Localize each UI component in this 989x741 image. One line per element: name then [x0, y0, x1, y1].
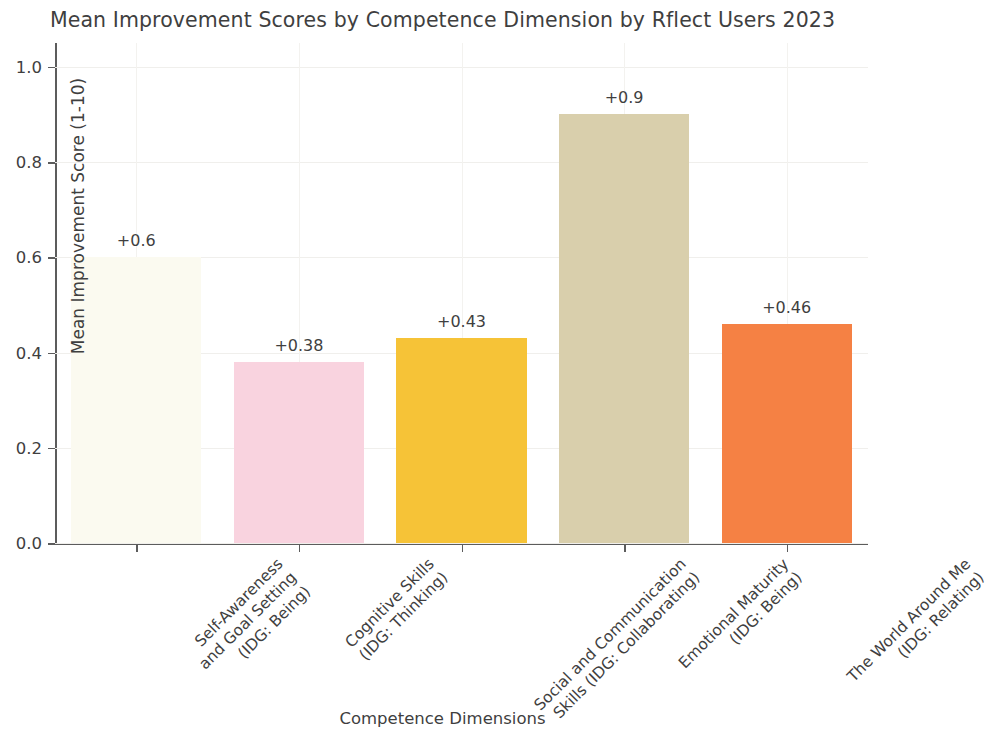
y-tick-label: 0.6 — [0, 248, 42, 267]
x-category-label: Cognitive Skills(IDG: Thinking) — [341, 555, 452, 666]
y-tick-mark — [48, 448, 55, 450]
bar-value-label: +0.46 — [762, 298, 811, 317]
y-tick-mark — [48, 257, 55, 259]
y-tick-mark — [48, 353, 55, 355]
y-tick-mark — [48, 543, 55, 545]
y-tick-mark — [48, 67, 55, 69]
bar-value-label: +0.43 — [437, 312, 486, 331]
bar-value-label: +0.38 — [274, 336, 323, 355]
bar[interactable] — [71, 257, 201, 543]
gridline-horizontal — [55, 543, 868, 544]
bar[interactable] — [559, 114, 689, 543]
x-tick-mark — [136, 545, 138, 552]
x-axis-label: Competence Dimensions — [0, 709, 885, 728]
y-tick-label: 0.0 — [0, 534, 42, 553]
x-tick-mark — [299, 545, 301, 552]
bar[interactable] — [234, 362, 364, 543]
x-category-label-line: (IDG: Relating) — [857, 569, 988, 700]
x-category-label: The World Around Me(IDG: Relating) — [843, 555, 988, 700]
x-tick-mark — [624, 545, 626, 552]
plot-area: +0.6+0.38+0.43+0.9+0.46 Mean Improvement… — [55, 43, 868, 543]
bar-value-label: +0.6 — [117, 231, 156, 250]
x-tick-mark — [787, 545, 789, 552]
x-category-label-line: Social and Communication — [530, 555, 690, 715]
bar[interactable] — [722, 324, 852, 543]
y-tick-label: 0.2 — [0, 438, 42, 457]
y-tick-mark — [48, 162, 55, 164]
y-tick-label: 0.4 — [0, 343, 42, 362]
chart-title: Mean Improvement Scores by Competence Di… — [0, 8, 885, 32]
bar-value-label: +0.9 — [605, 88, 644, 107]
x-category-label: Social and CommunicationSkills (IDG: Col… — [530, 555, 704, 729]
y-tick-label: 1.0 — [0, 57, 42, 76]
y-tick-label: 0.8 — [0, 153, 42, 172]
x-category-label: Self-Awarenessand Goal Setting(IDG: Bein… — [182, 555, 315, 688]
x-category-label-line: Skills (IDG: Collaborating) — [544, 569, 704, 729]
y-axis-label: Mean Improvement Score (1-10) — [68, 0, 88, 451]
bar[interactable] — [396, 338, 526, 543]
x-tick-mark — [462, 545, 464, 552]
x-category-label-line: The World Around Me — [843, 555, 974, 686]
